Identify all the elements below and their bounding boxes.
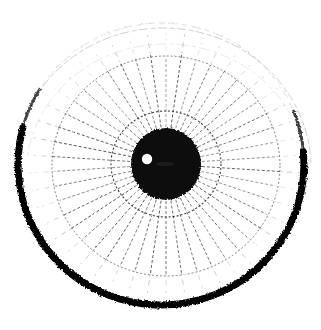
pupil xyxy=(131,128,201,200)
specular-highlight xyxy=(142,154,152,164)
pupil-smudge xyxy=(156,162,174,166)
iris-illustration xyxy=(0,0,321,330)
iris-figure-canvas: Black and white scanned line drawing of … xyxy=(0,0,321,330)
